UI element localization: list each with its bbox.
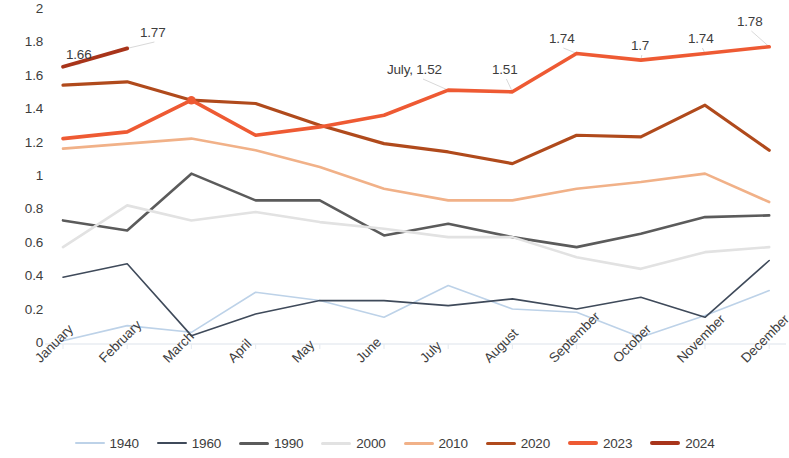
legend-item-2000[interactable]: 2000 xyxy=(321,436,385,451)
legend-swatch-icon xyxy=(404,442,434,445)
legend-label: 2020 xyxy=(521,436,550,451)
data-label-2023-october: 1.7 xyxy=(631,38,649,53)
legend-label: 1940 xyxy=(110,436,139,451)
legend-swatch-icon xyxy=(75,442,105,444)
chart-legend: 19401960199020002010202020232024 xyxy=(0,430,789,456)
legend-swatch-icon xyxy=(157,442,187,444)
data-value-labels: 1.661.77July, 1.521.511.741.71.741.78 xyxy=(0,0,789,458)
legend-item-2020[interactable]: 2020 xyxy=(486,436,550,451)
legend-swatch-icon xyxy=(650,441,680,445)
data-label-2023-december: 1.78 xyxy=(737,14,762,29)
data-label-2023-november: 1.74 xyxy=(688,31,713,46)
legend-label: 2000 xyxy=(356,436,385,451)
legend-label: 2023 xyxy=(603,436,632,451)
data-label-2023-august: 1.51 xyxy=(492,62,517,77)
data-label-2024-february: 1.77 xyxy=(140,25,165,40)
legend-item-1940[interactable]: 1940 xyxy=(75,436,139,451)
legend-item-1990[interactable]: 1990 xyxy=(239,436,303,451)
line-chart: 00.20.40.60.811.21.41.61.82 JanuaryFebru… xyxy=(0,0,789,458)
legend-item-2024[interactable]: 2024 xyxy=(650,436,714,451)
legend-label: 1960 xyxy=(192,436,221,451)
legend-swatch-icon xyxy=(568,441,598,445)
legend-swatch-icon xyxy=(486,442,516,445)
legend-label: 1990 xyxy=(274,436,303,451)
legend-swatch-icon xyxy=(239,442,269,445)
legend-item-2010[interactable]: 2010 xyxy=(404,436,468,451)
legend-item-1960[interactable]: 1960 xyxy=(157,436,221,451)
data-label-2023-july: July, 1.52 xyxy=(387,62,442,77)
legend-swatch-icon xyxy=(321,442,351,445)
data-label-2024-january: 1.66 xyxy=(66,47,91,62)
data-label-2023-september: 1.74 xyxy=(549,31,574,46)
legend-label: 2024 xyxy=(685,436,714,451)
legend-label: 2010 xyxy=(439,436,468,451)
legend-item-2023[interactable]: 2023 xyxy=(568,436,632,451)
